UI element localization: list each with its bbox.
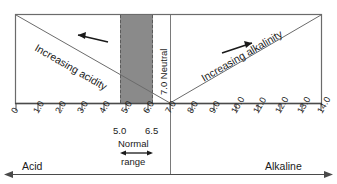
tick-label: 8.0 (185, 99, 200, 115)
tick-label: 14.0 (315, 95, 332, 115)
tick-label: 13.0 (295, 95, 312, 115)
normal-range-band (120, 15, 153, 103)
tick-label: 10.0 (229, 95, 246, 115)
normal-range-high-label: 6.5 (145, 125, 158, 136)
normal-range-unit-label: range (121, 156, 145, 167)
tick-label: 7.0 (163, 99, 178, 115)
alkaline-arrowhead-icon (324, 171, 333, 178)
normal-range-name-label: Normal (118, 138, 149, 149)
ph-scale-diagram: 0 1.0 2.0 3.0 4.0 5.0 6.0 7.0 8.0 9.0 10… (0, 0, 337, 184)
tick-label: 12.0 (273, 95, 290, 115)
acid-arrowhead-icon (4, 171, 13, 178)
tick-label: 0 (9, 106, 20, 115)
normal-range-extent-arrow-icon (120, 151, 153, 156)
tick-label: 9.0 (207, 99, 222, 115)
acid-label: Acid (22, 160, 43, 172)
tick-label: 1.0 (31, 99, 46, 115)
tick-label: 4.0 (97, 99, 112, 115)
acidity-arrow-icon (78, 32, 108, 42)
alkaline-label: Alkaline (265, 160, 302, 172)
normal-range-low-label: 5.0 (113, 125, 126, 136)
tick-label: 3.0 (75, 99, 90, 115)
neutral-label: 7.0 Neutral (158, 49, 169, 95)
tick-label: 2.0 (53, 99, 68, 115)
tick-label: 11.0 (251, 95, 268, 115)
increasing-alkalinity-label: Increasing alkalinity (199, 27, 285, 84)
acid-alkaline-scale-bar (4, 171, 333, 178)
increasing-acidity-label: Increasing acidity (33, 41, 110, 92)
